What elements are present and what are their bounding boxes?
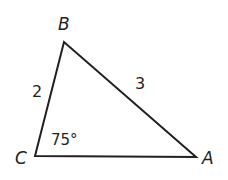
vertex-label-c: C — [15, 150, 27, 167]
vertex-label-b: B — [58, 16, 70, 33]
vertex-label-a: A — [202, 150, 214, 167]
side-label-ab: 3 — [135, 76, 145, 92]
side-label-bc: 2 — [32, 84, 42, 100]
angle-label-c: 75° — [51, 133, 78, 148]
triangle-diagram: B C A 2 3 75° — [0, 0, 228, 180]
